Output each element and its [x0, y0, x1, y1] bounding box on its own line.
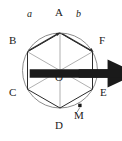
vertex-label-D: D [55, 120, 63, 131]
vector-label-b: b [76, 9, 81, 19]
vertex-label-C: C [9, 87, 16, 98]
vertex-label-A: A [55, 7, 63, 18]
point-label-M: M [74, 110, 84, 121]
vertex-label-B: B [9, 35, 16, 46]
vertex-label-F: F [99, 35, 105, 46]
point-m-marker [78, 104, 81, 107]
center-label-O: O [55, 72, 63, 83]
vector-a-arrow [29, 32, 60, 50]
vertex-label-E: E [100, 87, 107, 98]
vector-b-arrow [62, 34, 93, 52]
geometry-figure: A B C D E F O M a b [0, 0, 122, 141]
vector-label-a: a [27, 9, 32, 19]
